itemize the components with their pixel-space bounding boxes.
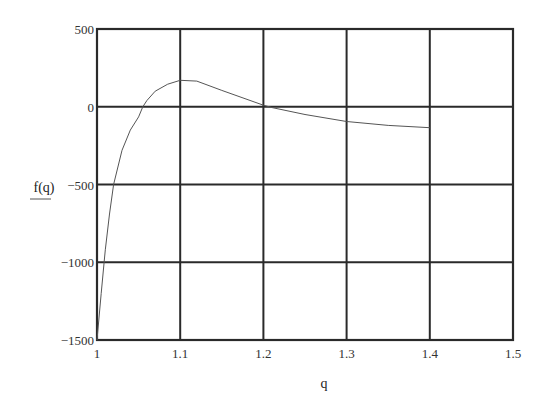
y-tick-label: −500	[67, 178, 94, 193]
x-tick-label: 1.4	[422, 346, 439, 361]
x-tick-label: 1.5	[505, 346, 521, 361]
y-axis-ticks: 5000−500−1000−1500	[61, 22, 94, 348]
y-tick-label: −1500	[61, 333, 94, 348]
x-tick-label: 1.2	[255, 346, 271, 361]
x-tick-label: 1.1	[172, 346, 188, 361]
y-tick-label: 500	[75, 22, 95, 37]
x-tick-label: 1	[94, 346, 101, 361]
y-axis-label: f(q)	[34, 180, 55, 196]
x-tick-label: 1.3	[338, 346, 354, 361]
x-axis-ticks: 11.11.21.31.41.5	[94, 346, 521, 361]
y-tick-label: −1000	[61, 255, 94, 270]
x-axis-label: q	[321, 376, 328, 391]
line-chart: 11.11.21.31.41.5 5000−500−1000−1500 q f(…	[0, 0, 552, 408]
grid-lines	[97, 29, 513, 340]
y-tick-label: 0	[88, 100, 95, 115]
